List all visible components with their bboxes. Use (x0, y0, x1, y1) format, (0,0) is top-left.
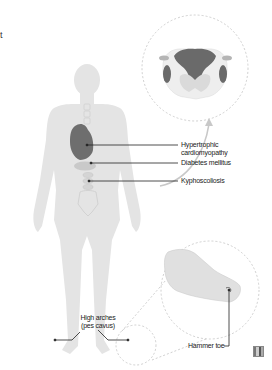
label-hypertrophic-cardiomyopathy: Hypertrophic cardiomyopathy (181, 141, 228, 157)
partial-text-fragment: t (0, 30, 3, 40)
label-kyphoscoliosis: Kyphoscoliosis (181, 177, 225, 185)
label-diabetes-mellitus: Diabetes mellitus (181, 159, 231, 167)
label-line: cardiomyopathy (181, 149, 228, 157)
human-body (33, 64, 140, 354)
label-high-arches: High arches (pes cavus) (72, 314, 124, 330)
label-line: (pes cavus) (72, 322, 124, 330)
spinal-cord-inset (142, 15, 248, 121)
medical-diagram: t Hypertrophic cardiomyopathy Diabetes m… (0, 0, 272, 370)
label-line: Hypertrophic (181, 141, 228, 149)
label-hammer-toe: Hammer toe (188, 342, 225, 350)
label-line: High arches (72, 314, 124, 322)
qr-code-icon (253, 346, 264, 357)
foot-inset (161, 241, 259, 339)
